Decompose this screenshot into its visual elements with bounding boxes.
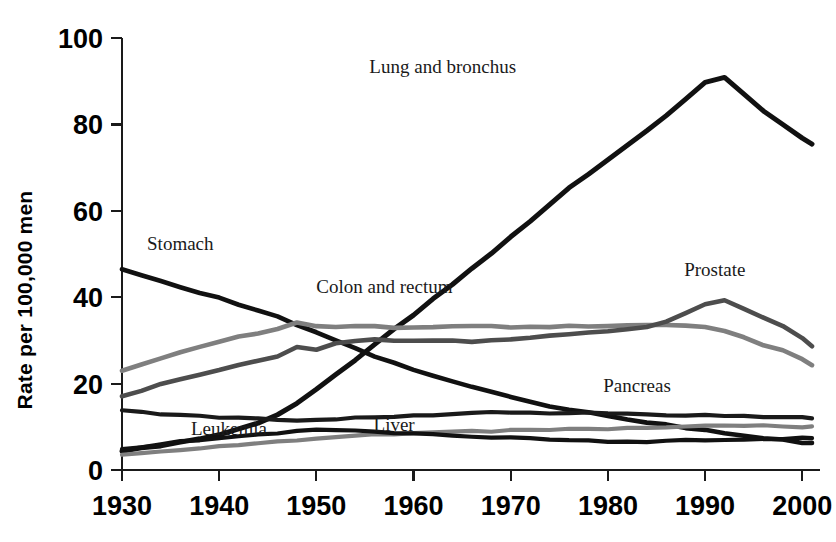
y-axis-title: Rate per 100,000 men bbox=[13, 191, 36, 410]
y-tick-label: 40 bbox=[73, 283, 103, 313]
series-label-pancreas: Pancreas bbox=[603, 375, 671, 396]
x-tick-label: 1980 bbox=[578, 491, 638, 521]
series-line-prostate bbox=[122, 300, 812, 396]
x-tick-label: 1990 bbox=[675, 491, 735, 521]
x-tick-label: 1940 bbox=[189, 491, 249, 521]
chart-container: Rate per 100,000 men 020406080100 193019… bbox=[0, 0, 836, 542]
series-label-colon-and-rectum: Colon and rectum bbox=[316, 276, 452, 297]
y-axis-ticks: 020406080100 bbox=[58, 24, 122, 486]
x-tick-label: 1930 bbox=[92, 491, 152, 521]
y-tick-label: 100 bbox=[58, 24, 103, 54]
axis-lines bbox=[122, 38, 820, 470]
series-label-lung-and-bronchus: Lung and bronchus bbox=[369, 56, 516, 77]
y-tick-label: 0 bbox=[88, 456, 103, 486]
series-label-prostate: Prostate bbox=[684, 259, 745, 280]
x-tick-label: 1960 bbox=[384, 491, 444, 521]
x-tick-label: 1950 bbox=[286, 491, 346, 521]
series-line-colon-and-rectum bbox=[122, 323, 812, 371]
line-chart: Rate per 100,000 men 020406080100 193019… bbox=[0, 0, 836, 542]
x-axis-ticks: 19301940195019601970198019902000 bbox=[92, 470, 832, 521]
series-label-leukemia: Leukemia bbox=[191, 418, 268, 439]
series-label-liver: Liver bbox=[374, 414, 416, 435]
y-tick-label: 20 bbox=[73, 370, 103, 400]
series-label-stomach: Stomach bbox=[147, 233, 214, 254]
y-axis-title-label: Rate per 100,000 men bbox=[13, 191, 36, 410]
y-tick-label: 80 bbox=[73, 110, 103, 140]
y-tick-label: 60 bbox=[73, 197, 103, 227]
x-tick-label: 2000 bbox=[772, 491, 832, 521]
x-tick-label: 1970 bbox=[481, 491, 541, 521]
